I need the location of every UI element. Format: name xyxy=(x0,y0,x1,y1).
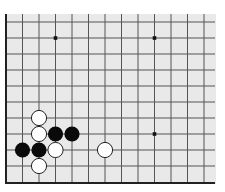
star-point xyxy=(153,36,157,40)
black-stone[interactable] xyxy=(48,126,63,141)
white-stone[interactable] xyxy=(31,158,46,173)
star-point xyxy=(153,132,157,136)
black-stone[interactable] xyxy=(15,142,30,157)
go-board-canvas[interactable] xyxy=(0,0,225,192)
star-point xyxy=(54,36,58,40)
white-stone[interactable] xyxy=(97,142,112,157)
go-board[interactable] xyxy=(0,0,225,192)
black-stone[interactable] xyxy=(64,126,79,141)
black-stone[interactable] xyxy=(31,142,46,157)
white-stone[interactable] xyxy=(31,110,46,125)
white-stone[interactable] xyxy=(48,142,63,157)
white-stone[interactable] xyxy=(31,126,46,141)
